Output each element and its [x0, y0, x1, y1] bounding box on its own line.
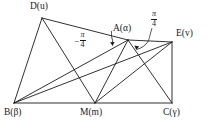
angle-left-fraction: π 4 — [80, 31, 86, 49]
angle-label-left: − π 4 — [74, 31, 86, 51]
vertex-label-e: E(v) — [176, 29, 193, 39]
arrowhead-left-icon — [110, 42, 115, 46]
angle-right-numerator: π — [151, 10, 157, 18]
angle-left-sign: − — [74, 36, 79, 46]
segment-b-a — [14, 40, 128, 103]
segment-b-e — [14, 42, 172, 103]
angle-arc-right — [137, 41, 149, 50]
angle-label-right: π 4 — [151, 10, 157, 30]
vertex-label-m: M(m) — [80, 108, 102, 118]
vertex-label-a: A(α) — [113, 24, 131, 34]
segment-a-e — [128, 40, 172, 42]
angle-right-denominator: 4 — [151, 20, 157, 28]
segment-m-e — [95, 42, 172, 103]
angle-left-denominator: 4 — [80, 41, 86, 49]
angle-left-numerator: π — [80, 31, 86, 39]
vertex-label-d: D(u) — [30, 2, 48, 12]
vertex-label-b: B(β) — [4, 108, 22, 118]
vertex-label-c: C(γ) — [163, 108, 180, 118]
figure-segments — [14, 18, 172, 103]
angle-right-fraction: π 4 — [151, 10, 157, 28]
segment-d-m — [42, 18, 95, 103]
